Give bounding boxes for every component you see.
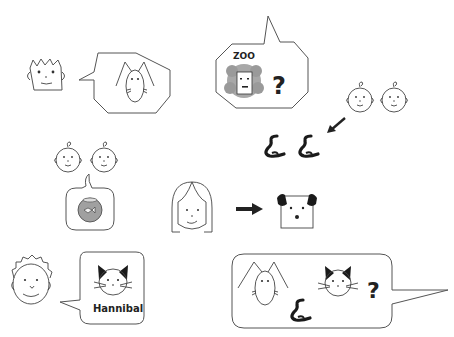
rabbit-icon <box>238 262 288 305</box>
baby-face-icon <box>55 142 82 172</box>
fishbowl-icon <box>78 198 102 222</box>
snakes-pair <box>262 132 332 162</box>
lion-icon <box>224 64 264 98</box>
snake-icon <box>266 136 284 156</box>
question-mark-icon: ? <box>272 72 286 100</box>
twin-babies-left <box>52 140 122 176</box>
snake-icon <box>292 300 310 320</box>
speech-bubble-zoo: ZOO ? <box>202 14 314 110</box>
cat-icon <box>318 266 358 296</box>
curly-boy-face-icon <box>8 254 54 308</box>
cat-icon <box>94 265 132 295</box>
speech-bubble-rabbit <box>78 50 173 116</box>
baby-face-icon <box>347 82 374 112</box>
zoo-label: ZOO <box>233 51 255 61</box>
question-mark-icon: ? <box>367 278 380 303</box>
speech-bubble-fishbowl <box>64 172 116 232</box>
twin-babies-right <box>344 80 414 116</box>
rabbit-icon <box>116 62 154 102</box>
arrow-right-icon <box>236 202 264 216</box>
snake-icon <box>300 136 318 156</box>
cat-name-label: Hannibal <box>93 303 143 314</box>
spiky-boy-face-icon <box>24 58 70 100</box>
dog-face-icon <box>275 192 319 230</box>
girl-face-icon <box>168 178 216 236</box>
baby-face-icon <box>381 82 408 112</box>
speech-bubble-cat-name: Hannibal <box>58 250 148 330</box>
speech-bubble-pets-question: ? <box>230 252 452 330</box>
baby-face-icon <box>91 142 118 172</box>
